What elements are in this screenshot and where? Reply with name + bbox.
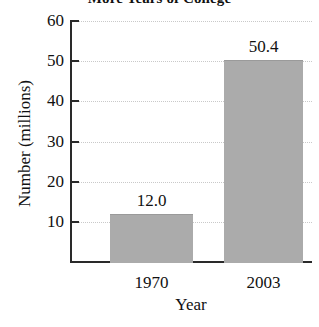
bar-value-label: 50.4 <box>204 38 319 55</box>
bar-value-label: 12.0 <box>90 192 213 209</box>
x-axis-title: Year <box>70 296 312 313</box>
chart-title: More Years of College <box>0 0 319 6</box>
bar <box>110 214 193 263</box>
y-axis-tick-label: 20 <box>18 173 64 190</box>
y-axis-tick-label: 60 <box>18 12 64 29</box>
y-axis-tick-label: 30 <box>18 133 64 150</box>
bar-chart-figure: More Years of College Number (millions) … <box>0 0 319 327</box>
x-axis-tick-label: 1970 <box>90 274 213 291</box>
y-axis-tick <box>70 60 79 62</box>
gridline <box>72 21 312 22</box>
bar <box>224 60 303 263</box>
y-axis-tick-label: 50 <box>18 52 64 69</box>
y-axis-tick <box>70 181 79 183</box>
y-axis-tick <box>70 141 79 143</box>
y-axis-tick-label: 40 <box>18 92 64 109</box>
y-axis-tick <box>70 100 79 102</box>
y-axis-tick <box>70 221 79 223</box>
y-axis-tick <box>70 20 79 22</box>
plot-area <box>70 21 312 262</box>
x-axis-tick-label: 2003 <box>204 274 319 291</box>
y-axis-tick-label: 10 <box>18 213 64 230</box>
